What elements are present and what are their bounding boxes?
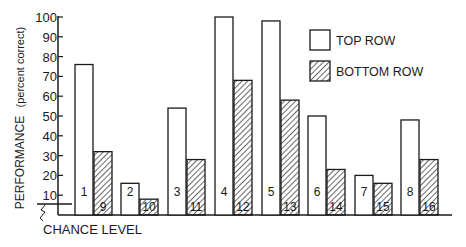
y-tick-label: 10 [43, 188, 57, 203]
y-ticks: 102030405060708090100 [35, 10, 63, 203]
y-tick-label: 70 [43, 69, 57, 84]
legend-label-top-row: TOP ROW [336, 34, 395, 48]
bar-bottom-row [281, 100, 299, 215]
legend-label-bottom-row: BOTTOM ROW [336, 65, 423, 79]
axis-break-icon [40, 205, 45, 221]
bar-label: 16 [422, 200, 436, 214]
bar-label: 10 [142, 200, 156, 214]
y-tick-label: 40 [43, 129, 57, 144]
bar-bottom-row [234, 80, 252, 215]
bar-label: 5 [268, 185, 275, 199]
bar-chart: PERFORMANCE (percent correct) 1020304050… [0, 0, 466, 247]
legend-swatch-top-row [310, 30, 330, 50]
bar-label: 2 [127, 185, 134, 199]
legend: TOP ROW BOTTOM ROW [310, 30, 423, 81]
bar-label: 4 [221, 185, 228, 199]
bar-top-row [401, 120, 419, 215]
legend-swatch-bottom-row [310, 61, 330, 81]
svg-text:PERFORMANCE (percent cor: PERFORMANCE (percent correct) [13, 27, 27, 209]
y-tick-label: 80 [43, 50, 57, 65]
bar-label: 11 [190, 200, 203, 214]
bar-label: 6 [314, 185, 321, 199]
y-tick-label: 30 [43, 149, 57, 164]
y-axis-label-main: PERFORMANCE [13, 116, 27, 209]
y-tick-label: 90 [43, 30, 57, 45]
bar-label: 13 [283, 200, 297, 214]
bar-label: 12 [236, 200, 250, 214]
y-tick-label: 60 [43, 89, 57, 104]
bar-label: 14 [329, 200, 343, 214]
bar-label: 8 [407, 185, 414, 199]
bar-label: 1 [81, 185, 88, 199]
bar-label: 7 [361, 185, 368, 199]
bar-top-row [308, 116, 326, 215]
y-tick-label: 20 [43, 168, 57, 183]
y-axis-label-sub: (percent correct) [14, 27, 26, 108]
chance-level-label: CHANCE LEVEL [43, 222, 142, 237]
bar-label: 15 [376, 200, 390, 214]
y-axis-label: PERFORMANCE (percent correct) [13, 27, 27, 209]
y-tick-label: 50 [43, 109, 57, 124]
bar-label: 3 [174, 185, 181, 199]
bar-label: 9 [100, 200, 107, 214]
y-tick-label: 100 [35, 10, 57, 25]
